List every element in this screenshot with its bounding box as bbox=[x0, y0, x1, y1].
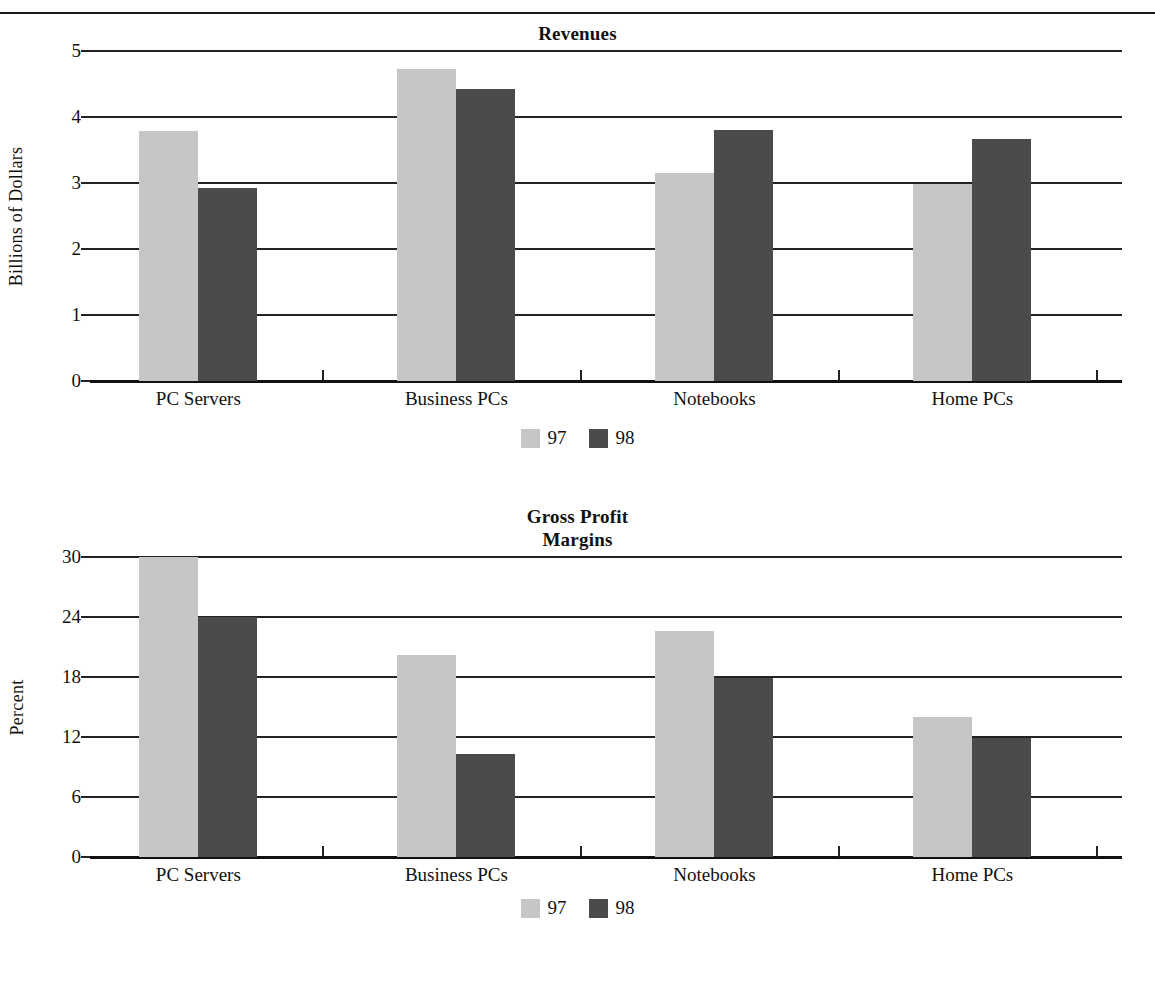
legend-label-97: 97 bbox=[548, 897, 567, 919]
revenues-x-label: Notebooks bbox=[673, 388, 755, 410]
margins-bar bbox=[397, 655, 456, 857]
margins-x-axis-labels: PC ServersBusiness PCsNotebooksHome PCs bbox=[90, 857, 1122, 891]
revenues-legend: 97 98 bbox=[0, 427, 1155, 449]
revenues-bar bbox=[913, 184, 972, 381]
margins-x-tick-mark bbox=[322, 846, 324, 857]
margins-y-tick-label: 6 bbox=[72, 786, 91, 808]
margins-y-tick-label: 24 bbox=[62, 606, 90, 628]
revenues-bar bbox=[972, 139, 1031, 381]
revenues-bar bbox=[139, 131, 198, 381]
margins-bar bbox=[714, 678, 773, 857]
legend-swatch-98-icon bbox=[589, 899, 608, 918]
margins-bar bbox=[456, 754, 515, 857]
revenues-bar bbox=[456, 89, 515, 381]
legend-item-98: 98 bbox=[589, 427, 635, 449]
margins-y-tick-label: 0 bbox=[72, 846, 91, 868]
revenues-figure: Revenues Billions of Dollars 012345 PC S… bbox=[0, 22, 1155, 449]
margins-x-tick-mark bbox=[1096, 846, 1098, 857]
revenues-x-label: Business PCs bbox=[405, 388, 508, 410]
chart-title-line2: Margins bbox=[0, 528, 1155, 551]
legend-item-97: 97 bbox=[521, 897, 567, 919]
legend-label-98: 98 bbox=[616, 897, 635, 919]
chart-title-gross-profit-margins: Gross Profit Margins bbox=[0, 505, 1155, 551]
revenues-x-label: PC Servers bbox=[156, 388, 241, 410]
margins-plot-area: Percent 0612182430 PC ServersBusiness PC… bbox=[0, 557, 1155, 857]
revenues-bar bbox=[198, 188, 257, 381]
legend-swatch-97-icon bbox=[521, 899, 540, 918]
revenues-y-axis-label: Billions of Dollars bbox=[6, 51, 28, 381]
revenues-x-tick-mark bbox=[838, 370, 840, 381]
margins-gridline bbox=[90, 556, 1122, 558]
revenues-y-tick-label: 5 bbox=[72, 40, 91, 62]
revenues-bar bbox=[714, 130, 773, 381]
revenues-plot-area: Billions of Dollars 012345 PC ServersBus… bbox=[0, 51, 1155, 381]
legend-swatch-97-icon bbox=[521, 429, 540, 448]
margins-bar bbox=[972, 738, 1031, 857]
gross-profit-margins-figure: Gross Profit Margins Percent 0612182430 … bbox=[0, 505, 1155, 919]
revenues-y-tick-label: 2 bbox=[72, 238, 91, 260]
margins-bar bbox=[139, 557, 198, 857]
margins-x-tick-mark bbox=[838, 846, 840, 857]
page-top-rule bbox=[0, 12, 1155, 14]
revenues-bar bbox=[655, 173, 714, 381]
revenues-x-tick-mark bbox=[322, 370, 324, 381]
margins-y-axis-label: Percent bbox=[6, 557, 28, 857]
revenues-gridline bbox=[90, 50, 1122, 52]
revenues-bar bbox=[397, 69, 456, 381]
margins-x-label: Home PCs bbox=[931, 864, 1013, 886]
legend-label-97: 97 bbox=[548, 427, 567, 449]
margins-bar bbox=[913, 717, 972, 857]
legend-swatch-98-icon bbox=[589, 429, 608, 448]
margins-x-label: PC Servers bbox=[156, 864, 241, 886]
legend-item-98: 98 bbox=[589, 897, 635, 919]
margins-y-tick-label: 30 bbox=[62, 546, 90, 568]
margins-y-tick-label: 18 bbox=[62, 666, 90, 688]
revenues-y-tick-label: 0 bbox=[72, 370, 91, 392]
chart-title-line1: Revenues bbox=[538, 23, 617, 44]
margins-legend: 97 98 bbox=[0, 897, 1155, 919]
margins-bar bbox=[198, 617, 257, 857]
revenues-x-label: Home PCs bbox=[931, 388, 1013, 410]
revenues-plot: 012345 bbox=[90, 51, 1122, 381]
margins-bar bbox=[655, 631, 714, 857]
margins-plot: 0612182430 bbox=[90, 557, 1122, 857]
revenues-y-tick-label: 4 bbox=[72, 106, 91, 128]
revenues-x-tick-mark bbox=[1096, 370, 1098, 381]
legend-item-97: 97 bbox=[521, 427, 567, 449]
revenues-gridline bbox=[90, 116, 1122, 118]
revenues-y-tick-label: 3 bbox=[72, 172, 91, 194]
margins-x-label: Notebooks bbox=[673, 864, 755, 886]
margins-x-tick-mark bbox=[580, 846, 582, 857]
margins-x-label: Business PCs bbox=[405, 864, 508, 886]
margins-y-tick-label: 12 bbox=[62, 726, 90, 748]
revenues-y-tick-label: 1 bbox=[72, 304, 91, 326]
chart-title-line1: Gross Profit bbox=[527, 506, 628, 527]
chart-title-revenues: Revenues bbox=[0, 22, 1155, 45]
revenues-x-tick-mark bbox=[580, 370, 582, 381]
revenues-x-axis-labels: PC ServersBusiness PCsNotebooksHome PCs bbox=[90, 381, 1122, 415]
legend-label-98: 98 bbox=[616, 427, 635, 449]
